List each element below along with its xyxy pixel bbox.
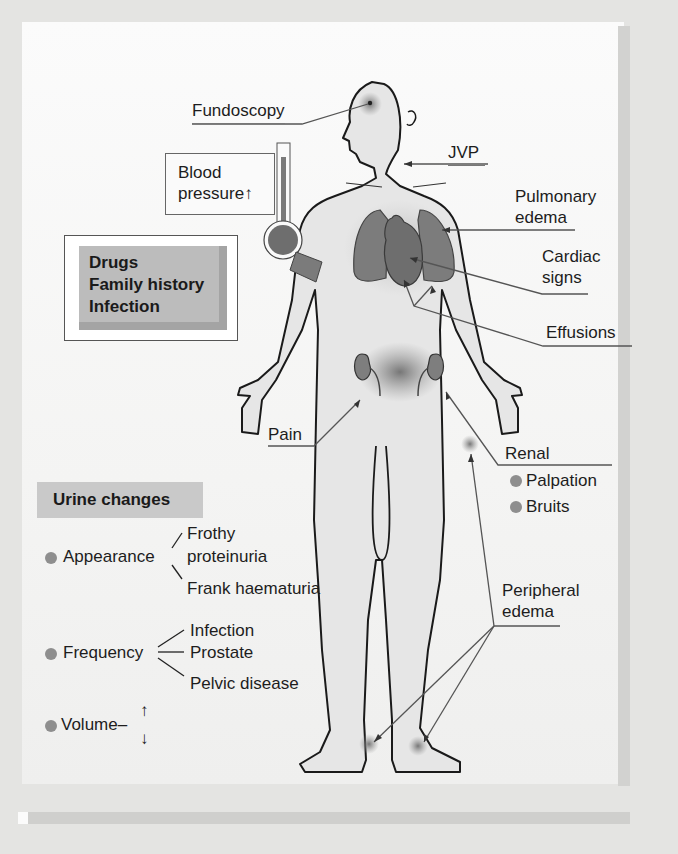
risk-factor-family-history: Family history bbox=[89, 274, 204, 296]
bullet-icon bbox=[510, 501, 522, 513]
renal-item-bruits: Bruits bbox=[526, 496, 569, 517]
ear bbox=[407, 111, 416, 125]
risk-factor-drugs: Drugs bbox=[89, 252, 204, 274]
label-blood-pressure-line2: pressure↑ bbox=[178, 183, 253, 204]
blood-pressure-box: Blood pressure↑ bbox=[165, 153, 275, 215]
risk-factor-infection: Infection bbox=[89, 296, 204, 318]
urine-appearance-label: Appearance bbox=[63, 546, 155, 567]
urine-frequency-label: Frequency bbox=[63, 642, 143, 663]
bullet-icon bbox=[45, 552, 57, 564]
label-cardiac-signs-line1: Cardiac bbox=[542, 246, 601, 267]
label-peripheral-edema: Peripheral edema bbox=[502, 580, 580, 622]
label-renal: Renal bbox=[505, 443, 549, 464]
label-jvp: JVP bbox=[448, 142, 485, 166]
bullet-icon bbox=[45, 720, 57, 732]
frequency-branch-prostate: Prostate bbox=[190, 642, 253, 663]
urine-changes-title: Urine changes bbox=[53, 490, 170, 510]
label-fundoscopy: Fundoscopy bbox=[192, 100, 285, 124]
label-peripheral-edema-line2: edema bbox=[502, 601, 580, 622]
label-pulmonary-edema-line1: Pulmonary bbox=[515, 186, 596, 207]
urine-changes-heading: Urine changes bbox=[37, 482, 203, 518]
label-cardiac-signs-line2: signs bbox=[542, 267, 601, 288]
urine-volume-label: Volume– bbox=[61, 714, 127, 735]
volume-decrease-arrow-icon: ↓ bbox=[140, 728, 149, 749]
renal-item-palpation: Palpation bbox=[526, 470, 597, 491]
label-effusions: Effusions bbox=[546, 322, 616, 343]
label-pulmonary-edema-line2: edema bbox=[515, 207, 596, 228]
appearance-branch-proteinuria: proteinuria bbox=[187, 546, 267, 567]
risk-factors-box: Drugs Family history Infection bbox=[64, 235, 238, 341]
label-blood-pressure-line1: Blood bbox=[178, 162, 253, 183]
label-cardiac-signs: Cardiac signs bbox=[542, 246, 601, 288]
bullet-icon bbox=[45, 648, 57, 660]
ankle-edema-left bbox=[359, 734, 379, 754]
appearance-branch-frank-haematuria: Frank haematuria bbox=[187, 578, 320, 599]
appearance-branch-frothy: Frothy bbox=[187, 523, 235, 544]
label-peripheral-edema-line1: Peripheral bbox=[502, 580, 580, 601]
label-pain: Pain bbox=[268, 424, 302, 445]
volume-increase-arrow-icon: ↑ bbox=[140, 700, 149, 721]
label-pulmonary-edema: Pulmonary edema bbox=[515, 186, 596, 228]
frequency-branch-pelvic-disease: Pelvic disease bbox=[190, 673, 299, 694]
frequency-branch-infection: Infection bbox=[190, 620, 254, 641]
bullet-icon bbox=[510, 475, 522, 487]
